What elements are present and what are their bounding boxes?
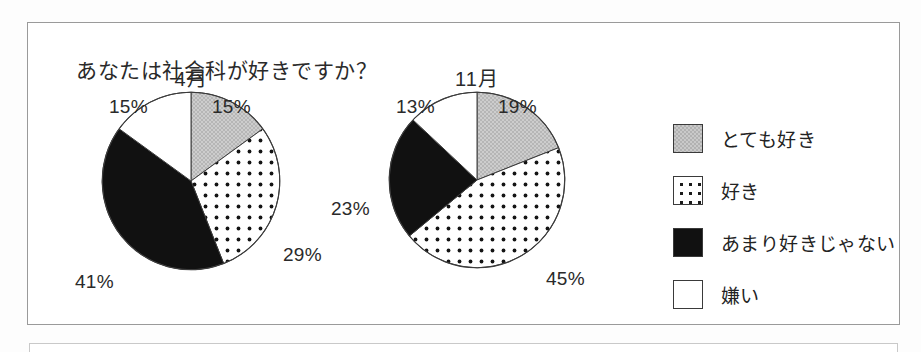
pie-caption-april: 4月 xyxy=(101,63,281,92)
legend-item-very-like: とても好き xyxy=(673,123,896,153)
legend-item-dislike: 嫌い xyxy=(673,279,896,309)
legend: とても好き 好き あまり好きじゃない 嫌い xyxy=(673,123,896,331)
pie-svg-april xyxy=(101,91,281,271)
legend-swatch-not-much xyxy=(673,228,703,257)
pct-label-april-very-like: 15% xyxy=(212,96,251,118)
pct-label-april-dislike: 15% xyxy=(109,96,148,118)
scanned-page: あなたは社会科が好きですか？ 4月 15% 15% 29% 41% 11月 13… xyxy=(0,0,921,352)
legend-label-like: 好き xyxy=(721,177,760,204)
figure-frame: あなたは社会科が好きですか？ 4月 15% 15% 29% 41% 11月 13… xyxy=(27,22,900,325)
legend-label-very-like: とても好き xyxy=(721,125,816,152)
legend-label-not-much: あまり好きじゃない xyxy=(721,229,896,256)
legend-item-not-much: あまり好きじゃない xyxy=(673,227,896,257)
pie-chart-april: 4月 xyxy=(101,63,281,269)
pct-label-april-not-much: 41% xyxy=(75,271,114,293)
next-figure-frame-fragment xyxy=(29,343,898,352)
pct-label-november-dislike: 13% xyxy=(396,96,435,118)
legend-label-dislike: 嫌い xyxy=(721,281,760,308)
pct-label-november-like: 45% xyxy=(546,268,585,290)
legend-item-like: 好き xyxy=(673,175,896,205)
pie-caption-november: 11月 xyxy=(388,63,566,92)
legend-swatch-like xyxy=(673,176,703,205)
pct-label-november-not-much: 23% xyxy=(331,198,370,220)
pct-label-april-like: 29% xyxy=(283,244,322,266)
pie-chart-november: 11月 xyxy=(388,63,566,269)
legend-swatch-dislike xyxy=(673,280,703,309)
pct-label-november-very-like: 19% xyxy=(498,96,537,118)
legend-swatch-very-like xyxy=(673,124,703,153)
